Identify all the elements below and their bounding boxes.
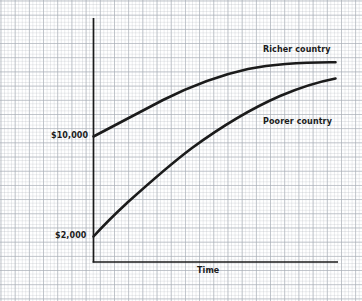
richer-country-series-label: Richer country: [263, 45, 331, 55]
chart-figure: Richer country Poorer country $10,000 $2…: [0, 0, 362, 301]
y-axis-tick-label-10000: $10,000: [51, 131, 88, 141]
poorer-country-curve: [94, 79, 336, 237]
y-axis-tick-label-2000: $2,000: [55, 231, 86, 241]
x-axis-title: Time: [197, 266, 219, 276]
poorer-country-series-label: Poorer country: [263, 117, 332, 127]
